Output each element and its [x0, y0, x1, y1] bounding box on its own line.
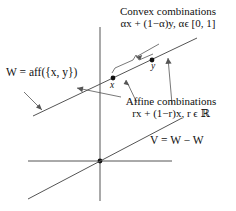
segment-brace: [112, 54, 153, 73]
affine-combinations-annotation: Affine combinations rx + (1−r)x, r ϵ ℝ: [108, 95, 234, 120]
convex-line-1: Convex combinations: [103, 5, 233, 17]
convex-combinations-annotation: Convex combinations αx + (1−α)y, αϵ [0, …: [103, 5, 233, 30]
v-subspace-label: V = W − W: [150, 134, 204, 147]
line-v: [28, 118, 182, 199]
arrow-convex-to-segment: [136, 44, 159, 57]
convex-line-2: αx + (1−α)y, αϵ [0, 1]: [103, 17, 233, 29]
affine-convex-combination-figure: Convex combinations αx + (1−α)y, αϵ [0, …: [0, 0, 236, 211]
point-y-label: y: [151, 61, 155, 72]
point-x-label: x: [110, 80, 114, 91]
w-affine-hull-label: W = aff({x, y}): [6, 66, 77, 79]
arrow-affine-to-line-w-head: [77, 87, 83, 93]
affine-line-2: rx + (1−r)x, r ϵ ℝ: [108, 107, 234, 119]
arrow-affine-right-head: [165, 58, 171, 64]
affine-line-1: Affine combinations: [108, 95, 234, 107]
arrow-affine-left-head: [124, 80, 130, 85]
